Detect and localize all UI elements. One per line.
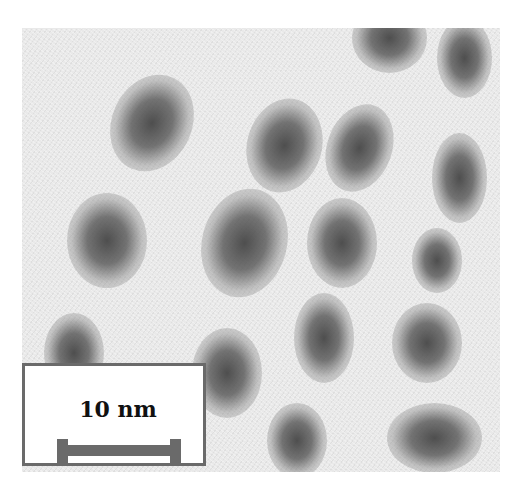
scale-bar-box: 10 nm xyxy=(22,363,206,466)
particle xyxy=(67,193,147,288)
particle xyxy=(307,198,377,288)
scale-bar-label: 10 nm xyxy=(25,396,203,422)
scale-bar-left-cap xyxy=(57,439,68,463)
particle xyxy=(412,228,462,293)
particle xyxy=(294,293,354,383)
scale-bar xyxy=(57,445,181,456)
scale-bar-right-cap xyxy=(170,439,181,463)
particle xyxy=(392,303,462,383)
particle xyxy=(432,133,487,223)
particle xyxy=(267,403,327,472)
particle xyxy=(387,403,482,472)
